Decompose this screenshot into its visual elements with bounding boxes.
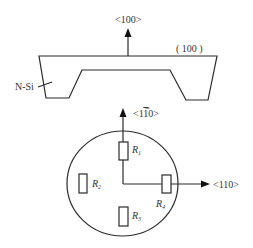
cross-section: <100> ( 100 ) N-Si bbox=[15, 14, 217, 100]
resistor-r3-label: R3 bbox=[131, 210, 141, 222]
plane-100-label: ( 100 ) bbox=[176, 43, 203, 55]
resistor-r2-label: R2 bbox=[91, 178, 101, 190]
direction-100-arrowhead-icon bbox=[125, 28, 132, 37]
resistor-r4-label: R4 bbox=[155, 198, 165, 210]
resistor-r1-label: R1 bbox=[131, 144, 141, 156]
axis-1-10-label: <110> bbox=[133, 108, 159, 119]
resistor-r2 bbox=[79, 174, 87, 193]
resistor-r3 bbox=[119, 207, 128, 226]
resistor-r4 bbox=[162, 175, 171, 193]
direction-100-label: <100> bbox=[115, 14, 142, 25]
sensor-diagram: <100> ( 100 ) N-Si <110> <110> R1 bbox=[0, 0, 253, 248]
n-si-leader-line bbox=[38, 82, 52, 87]
axis-110-label: <110> bbox=[213, 179, 239, 190]
top-view: <110> <110> R1 R2 R3 R4 bbox=[67, 108, 239, 236]
resistor-r1 bbox=[119, 142, 128, 160]
axis-110-arrowhead-icon bbox=[201, 181, 210, 188]
n-si-label: N-Si bbox=[15, 81, 34, 92]
silicon-die-outline bbox=[39, 56, 217, 100]
axis-1-10-arrowhead-icon bbox=[120, 108, 127, 117]
